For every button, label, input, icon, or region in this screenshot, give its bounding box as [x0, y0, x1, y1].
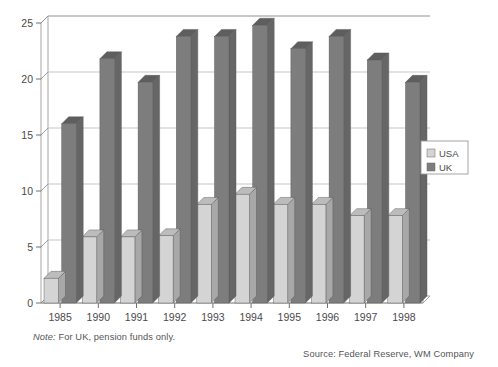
note-body: For UK, pension funds only. [56, 332, 175, 342]
x-tick-label: 1997 [354, 311, 378, 323]
bar [120, 230, 141, 303]
x-tick-label: 1985 [48, 311, 72, 323]
bar [197, 197, 219, 303]
x-tick-label: 1996 [316, 311, 340, 323]
bar [273, 197, 295, 303]
x-tick-label: 1991 [125, 311, 149, 323]
bar [388, 209, 410, 303]
bar [82, 230, 104, 303]
y-tick-label: 10 [21, 185, 33, 197]
source-footnote: Source: Federal Reserve, WM Company [303, 349, 474, 359]
x-tick-label: 1995 [278, 311, 302, 323]
legend-swatch [427, 149, 435, 157]
y-tick-label: 15 [21, 129, 33, 141]
bar [159, 229, 181, 303]
x-tick-label: 1994 [239, 311, 263, 323]
y-tick-label: 5 [27, 241, 33, 253]
note-footnote: Note: For UK, pension funds only. [33, 332, 175, 342]
bar [235, 187, 257, 303]
chart-figure: 0510152025 19851990199119921993199419951… [0, 0, 498, 367]
bar-chart: 0510152025 19851990199119921993199419951… [0, 0, 498, 367]
y-tick-label: 0 [27, 297, 33, 309]
y-tick-label: 25 [21, 17, 33, 29]
note-label: Note: [33, 332, 56, 342]
legend-label: USA [439, 148, 459, 159]
chart-legend: USAUK [421, 141, 468, 174]
x-tick-label: 1992 [163, 311, 187, 323]
y-tick-label: 20 [21, 73, 33, 85]
bar [44, 271, 66, 303]
legend-swatch [427, 163, 435, 171]
x-tick-label: 1998 [392, 311, 416, 323]
bar-series-group [44, 18, 427, 303]
x-tick-label: 1993 [201, 311, 225, 323]
x-tick-label: 1990 [87, 311, 111, 323]
legend-label: UK [439, 162, 453, 173]
bar [350, 209, 372, 303]
bar [311, 197, 333, 303]
